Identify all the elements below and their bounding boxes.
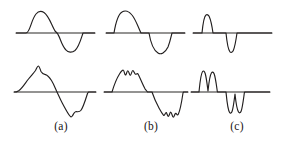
waveform-figure: (a) (b) (c) [0,0,282,145]
caption-row: (a) (b) (c) [0,120,282,145]
panel-c-bottom [0,58,282,120]
caption-a: (a) [31,120,91,132]
caption-b: (b) [121,120,181,132]
panel-c-top [0,0,282,60]
caption-c: (c) [207,120,267,132]
